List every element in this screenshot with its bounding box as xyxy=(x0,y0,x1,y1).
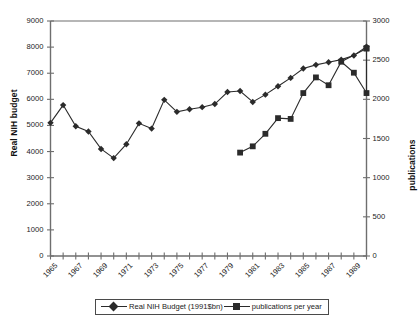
y-axis-left-tick: 9000 xyxy=(10,16,44,25)
y-axis-right-tick: 2000 xyxy=(373,94,407,103)
y-axis-left-tick: 5000 xyxy=(10,120,44,129)
y-axis-right-tick: 0 xyxy=(373,251,407,260)
y-axis-left-tick: 3000 xyxy=(10,173,44,182)
legend-item-publications: publications per year xyxy=(224,302,323,311)
y-axis-left-tick: 8000 xyxy=(10,42,44,51)
y-axis-right-tick: 500 xyxy=(373,212,407,221)
legend-marker-diamond-icon xyxy=(101,302,127,311)
legend-marker-square-icon xyxy=(224,302,250,311)
y-axis-right-tick: 3000 xyxy=(373,16,407,25)
y-axis-left-tick: 7000 xyxy=(10,68,44,77)
y-axis-left-tick: 0 xyxy=(10,251,44,260)
legend-label-budget: Real NIH Budget (1991$bn) xyxy=(127,302,224,311)
y-axis-left-tick: 1000 xyxy=(10,225,44,234)
y-axis-left-tick: 6000 xyxy=(10,94,44,103)
y-axis-right-title: publications xyxy=(407,110,417,220)
legend-label-publications: publications per year xyxy=(250,302,323,311)
chart-container: Real NIH budget publications Real NIH Bu… xyxy=(0,0,419,324)
y-axis-right-tick: 1000 xyxy=(373,173,407,182)
chart-legend: Real NIH Budget (1991$bn) publications p… xyxy=(95,299,329,315)
legend-item-budget: Real NIH Budget (1991$bn) xyxy=(101,302,224,311)
y-axis-right-tick: 2500 xyxy=(373,55,407,64)
y-axis-left-tick: 4000 xyxy=(10,147,44,156)
y-axis-right-tick: 1500 xyxy=(373,134,407,143)
y-axis-left-tick: 2000 xyxy=(10,199,44,208)
